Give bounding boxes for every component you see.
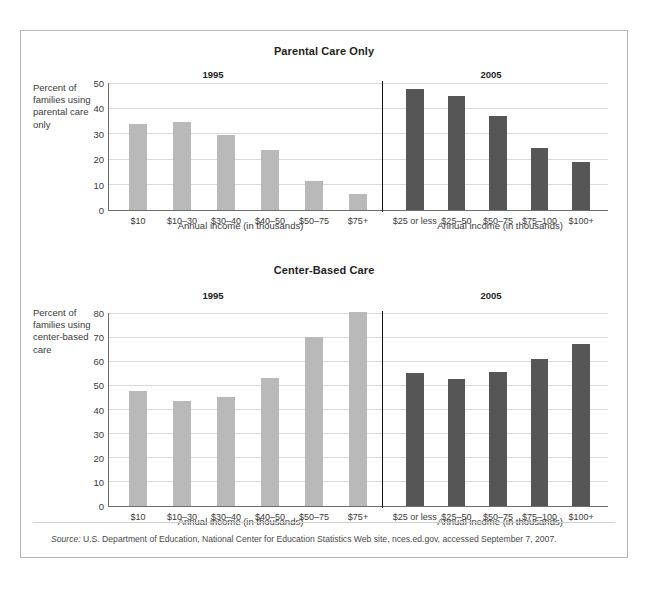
bar xyxy=(173,122,191,210)
y-axis-tick-label: 60 xyxy=(93,356,104,367)
y-axis-tick-label: 30 xyxy=(93,428,104,439)
bar xyxy=(217,397,235,506)
bar xyxy=(173,401,191,506)
y-axis-tick-label: 30 xyxy=(93,128,104,139)
bar xyxy=(129,391,147,506)
bar xyxy=(305,181,323,210)
plot-area-center-based-care: 01020304050607080$10$10–30$30–40$40–50$5… xyxy=(108,313,608,506)
y-axis-tick-label: 20 xyxy=(93,154,104,165)
gridline xyxy=(108,108,608,109)
y-axis-description-top: Percent of families using parental care … xyxy=(33,82,95,131)
y-axis-tick-label: 50 xyxy=(93,78,104,89)
y-axis-tick-label: 70 xyxy=(93,332,104,343)
panel-year-2005-bottom: 2005 xyxy=(366,290,616,301)
bar xyxy=(531,148,548,210)
y-axis-tick-label: 20 xyxy=(93,452,104,463)
bar xyxy=(406,373,423,506)
y-axis-tick-label: 0 xyxy=(99,501,104,512)
bar xyxy=(572,344,589,506)
bar xyxy=(489,116,506,210)
y-axis-tick-label: 0 xyxy=(99,205,104,216)
y-axis-tick-label: 50 xyxy=(93,380,104,391)
plot-area-parental-care: 01020304050$10$10–30$30–40$40–50$50–75$7… xyxy=(108,83,608,210)
panel-year-1995-top: 1995 xyxy=(63,69,363,80)
source-divider xyxy=(33,522,615,523)
bar xyxy=(305,337,323,506)
bar xyxy=(572,162,589,210)
y-axis-tick-label: 10 xyxy=(93,476,104,487)
y-axis-tick-label: 80 xyxy=(93,308,104,319)
y-axis-description-bottom: Percent of families using center-based c… xyxy=(33,307,95,356)
bar xyxy=(349,312,367,506)
figure-card: Parental Care Only 1995 2005 Percent of … xyxy=(20,30,628,558)
panel-year-1995-bottom: 1995 xyxy=(63,290,363,301)
y-axis-line xyxy=(108,313,109,506)
y-axis-tick-label: 40 xyxy=(93,103,104,114)
bar xyxy=(129,124,147,210)
source-note: Source: U.S. Department of Education, Na… xyxy=(51,533,607,545)
bar xyxy=(217,135,235,210)
bar xyxy=(349,194,367,211)
panel-divider-top xyxy=(382,81,383,212)
y-axis-tick-label: 10 xyxy=(93,179,104,190)
source-text: U.S. Department of Education, National C… xyxy=(81,534,557,544)
gridline xyxy=(108,83,608,84)
chart-title-center-based-care: Center-Based Care xyxy=(21,264,627,276)
x-axis-caption-1995-top: Annual income (in thousands) xyxy=(108,220,373,231)
chart-title-parental-care: Parental Care Only xyxy=(21,45,627,57)
y-axis-tick-label: 40 xyxy=(93,404,104,415)
bar xyxy=(448,379,465,506)
x-axis-caption-2005-top: Annual income (in thousands) xyxy=(391,220,609,231)
bar xyxy=(531,359,548,506)
panel-divider-bottom xyxy=(382,311,383,508)
bar xyxy=(489,372,506,506)
bar xyxy=(261,378,279,506)
y-axis-line xyxy=(108,83,109,210)
bar xyxy=(406,89,423,210)
bar xyxy=(448,96,465,210)
bar xyxy=(261,150,279,210)
panel-year-2005-top: 2005 xyxy=(366,69,616,80)
source-label: Source: xyxy=(51,534,81,544)
